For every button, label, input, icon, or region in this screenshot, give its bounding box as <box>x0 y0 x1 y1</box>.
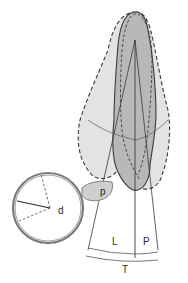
arc-l <box>88 248 135 254</box>
magnifier-handle <box>82 181 113 201</box>
arc-t <box>86 256 158 261</box>
inner-tooth-shape <box>113 12 156 190</box>
tooth-diagram: p d L P T <box>0 0 188 283</box>
label-l: L <box>112 236 118 247</box>
label-t: T <box>122 264 128 275</box>
label-P: P <box>143 236 150 247</box>
arc-p <box>135 252 158 254</box>
label-d: d <box>58 205 64 216</box>
label-p-small: p <box>100 186 106 197</box>
